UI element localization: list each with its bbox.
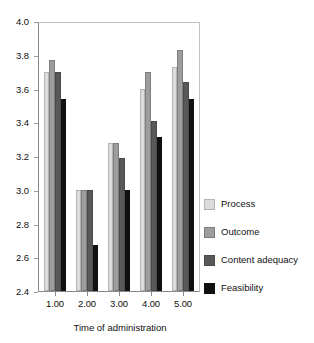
legend-label: Outcome [221, 227, 260, 237]
y-tick-label: 2.8 [16, 220, 29, 230]
y-tick-mark [34, 258, 38, 259]
y-tick-mark [34, 123, 38, 124]
y-tick-mark [34, 292, 38, 293]
y-tick-mark [34, 157, 38, 158]
x-tick-label: 5.00 [174, 299, 192, 309]
y-tick-label: 3.6 [16, 85, 29, 95]
bar-chart: 2.42.62.83.03.23.43.63.84.0 Time of admi… [0, 0, 314, 343]
bar [183, 82, 188, 291]
y-tick-label: 3.2 [16, 152, 29, 162]
y-tick-mark [34, 225, 38, 226]
legend-label: Feasibility [221, 283, 263, 293]
bars-layer [39, 22, 199, 291]
y-tick-mark [34, 56, 38, 57]
bar [55, 72, 60, 291]
x-tick-label: 1.00 [46, 299, 64, 309]
x-tick-mark [87, 292, 88, 296]
x-tick-mark [55, 292, 56, 296]
bar [125, 190, 130, 291]
y-tick-mark [34, 191, 38, 192]
y-tick-mark [34, 22, 38, 23]
bar [157, 137, 162, 291]
x-tick-mark [151, 292, 152, 296]
bar [119, 158, 124, 291]
bar [113, 143, 118, 292]
chart-legend: ProcessOutcomeContent adequacyFeasibilit… [204, 193, 314, 305]
legend-swatch-icon [204, 283, 215, 294]
y-tick-label: 3.8 [16, 51, 29, 61]
bar [145, 72, 150, 291]
bar [61, 99, 66, 291]
legend-swatch-icon [204, 227, 215, 238]
x-tick-label: 3.00 [110, 299, 128, 309]
y-tick-label: 2.6 [16, 254, 29, 264]
bar [93, 245, 98, 291]
y-tick-label: 3.4 [16, 119, 29, 129]
x-tick-mark [183, 292, 184, 296]
bar [81, 190, 86, 291]
bar [140, 89, 145, 292]
legend-item: Process [204, 193, 314, 215]
x-tick-label: 4.00 [142, 299, 160, 309]
y-tick-mark [34, 90, 38, 91]
x-tick-label: 2.00 [78, 299, 96, 309]
bar [108, 143, 113, 292]
legend-swatch-icon [204, 199, 215, 210]
y-axis: 2.42.62.83.03.23.43.63.84.0 [0, 0, 34, 343]
bar [44, 72, 49, 291]
y-tick-label: 3.0 [16, 186, 29, 196]
x-tick-mark [119, 292, 120, 296]
bar [87, 190, 92, 291]
legend-item: Outcome [204, 221, 314, 243]
x-axis-title: Time of administration [0, 322, 240, 333]
y-tick-label: 4.0 [16, 17, 29, 27]
bar [189, 99, 194, 291]
legend-item: Feasibility [204, 277, 314, 299]
y-tick-label: 2.4 [16, 287, 29, 297]
bar [49, 60, 54, 291]
bar [151, 121, 156, 291]
bar [177, 50, 182, 291]
bar [172, 67, 177, 291]
bar [76, 190, 81, 291]
legend-label: Content adequacy [221, 255, 298, 265]
legend-label: Process [221, 199, 255, 209]
legend-item: Content adequacy [204, 249, 314, 271]
legend-swatch-icon [204, 255, 215, 266]
